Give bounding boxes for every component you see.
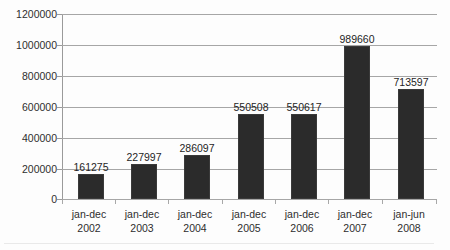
x-category-year-6: 2008 bbox=[374, 221, 444, 235]
x-tick-mark-4 bbox=[275, 200, 276, 204]
bar-value-label-jan-dec-2004: 286097 bbox=[167, 142, 227, 154]
bar-value-label-jan-dec-2007: 989660 bbox=[327, 33, 387, 45]
x-category-label-jan-jun-2008: jan-jun 2008 bbox=[374, 207, 444, 235]
bar-jan-dec-2002 bbox=[78, 174, 104, 199]
y-tick-label-200000: 200000 bbox=[3, 164, 57, 175]
bar-jan-dec-2003 bbox=[131, 164, 157, 199]
bar-value-label-jan-jun-2008: 713597 bbox=[381, 76, 441, 88]
x-tick-mark-6 bbox=[382, 200, 383, 204]
bar-value-label-jan-dec-2005: 550508 bbox=[221, 101, 281, 113]
bar-jan-dec-2006 bbox=[291, 114, 317, 199]
bar-jan-dec-2007 bbox=[344, 46, 370, 199]
y-tick-label-1000000: 1000000 bbox=[3, 40, 57, 51]
bar-value-label-jan-dec-2003: 227997 bbox=[114, 151, 174, 163]
x-tick-mark-2 bbox=[168, 200, 169, 204]
y-tick-label-1200000: 1200000 bbox=[3, 9, 57, 20]
scan-artifact-line bbox=[4, 243, 434, 244]
x-tick-mark-5 bbox=[328, 200, 329, 204]
y-axis-labels: 1200000 1000000 800000 600000 400000 200… bbox=[0, 0, 57, 250]
x-tick-mark-7 bbox=[436, 200, 437, 204]
y-tick-label-0: 0 bbox=[3, 194, 57, 205]
bar-jan-dec-2005 bbox=[238, 114, 264, 199]
gridline-1200000 bbox=[62, 14, 437, 15]
y-tick-label-400000: 400000 bbox=[3, 133, 57, 144]
x-tick-mark-1 bbox=[115, 200, 116, 204]
x-category-period-6: jan-jun bbox=[374, 207, 444, 221]
bar-value-label-jan-dec-2006: 550617 bbox=[274, 101, 334, 113]
y-tick-label-800000: 800000 bbox=[3, 71, 57, 82]
x-tick-mark-3 bbox=[222, 200, 223, 204]
bar-jan-jun-2008 bbox=[398, 89, 424, 199]
bar-chart: 1200000 1000000 800000 600000 400000 200… bbox=[0, 0, 450, 250]
gridline-baseline-0 bbox=[62, 199, 437, 200]
bar-jan-dec-2004 bbox=[184, 155, 210, 199]
bar-value-label-jan-dec-2002: 161275 bbox=[61, 161, 121, 173]
x-tick-mark-0 bbox=[62, 200, 63, 204]
y-tick-label-600000: 600000 bbox=[3, 102, 57, 113]
